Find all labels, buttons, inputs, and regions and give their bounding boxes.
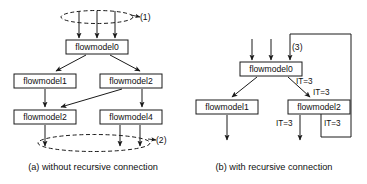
panel-b-input-arrows [252, 39, 290, 60]
panel-a: (1) flowmodel0 flowmodel1 flowmodel2 flo… [14, 11, 167, 173]
panel-a-input-arrows [79, 11, 115, 38]
node-a-flowmodel4-label: flowmodel4 [109, 112, 153, 122]
node-b-flowmodel2-label: flowmodel2 [297, 102, 341, 112]
figure-container: (1) flowmodel0 flowmodel1 flowmodel2 flo… [0, 0, 367, 184]
annotation-tag-3: (3) [292, 42, 303, 52]
node-a-flowmodel0-label: flowmodel0 [75, 42, 119, 52]
dashed-ellipse-2 [38, 135, 150, 152]
node-a-flowmodel2-bottom-label: flowmodel2 [23, 112, 67, 122]
label-it-fm0-output: IT=3 [296, 77, 313, 86]
flowmodel-diagram: (1) flowmodel0 flowmodel1 flowmodel2 flo… [0, 0, 367, 184]
edge-a-fm0-to-fm1 [56, 55, 86, 71]
node-b-flowmodel0-label: flowmodel0 [249, 64, 293, 74]
annotation-tag-2: (2) [156, 135, 167, 145]
node-a-flowmodel1-label: flowmodel1 [23, 76, 67, 86]
edge-a-fm0-to-fm2 [110, 55, 140, 71]
node-a-flowmodel2-mid-label: flowmodel2 [109, 76, 153, 86]
edge-b-fm0-to-fm1 [232, 77, 257, 97]
panel-b: (3) flowmodel0 IT=3 IT=3 flowmodel1 flow… [196, 34, 351, 172]
annotation-tag-1: (1) [140, 12, 151, 22]
leader-line-tag-2 [148, 139, 156, 140]
label-it-fm2-output: IT=3 [276, 119, 293, 128]
node-b-flowmodel1-label: flowmodel1 [205, 102, 249, 112]
panel-b-caption: (b) with recursive connection [216, 162, 333, 172]
edge-a-fm2mid-to-fm2b [61, 89, 122, 107]
label-it-loop: IT=3 [324, 119, 341, 128]
panel-a-caption: (a) without recursive connection [28, 162, 158, 172]
label-it-fm2-input: IT=3 [313, 88, 330, 97]
